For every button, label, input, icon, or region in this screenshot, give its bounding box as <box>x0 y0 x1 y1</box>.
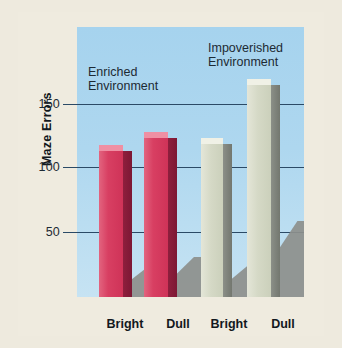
bar-top <box>99 145 123 151</box>
x-tick-label-enriched-bright: Bright <box>97 317 153 331</box>
x-tick-label-enriched-dull: Dull <box>156 317 200 331</box>
chart-figure: Maze Errors 150 100 50 Bright Dull Brigh… <box>0 0 342 348</box>
bar-top <box>144 132 168 138</box>
bar-side <box>223 144 232 297</box>
bar-face <box>144 138 168 297</box>
y-tick-mark-50 <box>63 232 77 233</box>
y-tick-label-150: 150 <box>18 98 60 110</box>
annotation-impoverished-environment: Impoverished Environment <box>208 41 283 69</box>
bar-top <box>201 138 223 144</box>
bar-impoverished-dull <box>247 85 271 297</box>
bar-impoverished-bright <box>201 144 223 297</box>
annotation-enriched-environment: Enriched Environment <box>88 65 158 93</box>
bar-top <box>247 79 271 85</box>
annotation-impoverished-line1: Impoverished <box>208 41 283 55</box>
bar-face <box>247 85 271 297</box>
bar-enriched-dull <box>144 138 168 297</box>
annotation-enriched-line1: Enriched <box>88 65 158 79</box>
y-tick-mark-150 <box>63 104 77 105</box>
x-tick-label-impoverished-dull: Dull <box>261 317 305 331</box>
plot-area: Enriched Environment Impoverished Enviro… <box>77 27 304 297</box>
bar-enriched-bright <box>99 151 123 297</box>
bar-side <box>168 138 177 297</box>
bar-face <box>201 144 223 297</box>
y-tick-label-100: 100 <box>18 161 60 173</box>
x-tick-label-impoverished-bright: Bright <box>201 317 257 331</box>
bar-side <box>271 85 280 297</box>
annotation-enriched-line2: Environment <box>88 79 158 93</box>
y-tick-label-50: 50 <box>18 226 60 238</box>
bar-side <box>123 151 132 297</box>
bar-face <box>99 151 123 297</box>
annotation-impoverished-line2: Environment <box>208 55 283 69</box>
y-tick-mark-100 <box>63 167 77 168</box>
